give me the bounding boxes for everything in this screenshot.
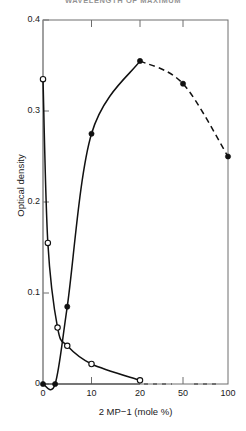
data-point-open	[89, 361, 94, 366]
x-tick-label: 100	[213, 389, 243, 398]
plot-frame	[43, 20, 228, 384]
data-point-filled	[137, 58, 142, 63]
x-tick-label: 20	[125, 389, 155, 398]
data-point-filled	[40, 381, 45, 386]
chart-figure: WAVELENGTH OF MAXIMUM Optical density 2 …	[0, 0, 246, 431]
y-tick-label: 0	[14, 379, 40, 388]
data-series	[43, 61, 228, 390]
x-tick-label: 0	[28, 389, 58, 398]
data-point-filled	[53, 381, 58, 386]
data-point-open	[40, 76, 45, 81]
y-tick-label: 0.4	[14, 15, 40, 24]
data-point-filled	[225, 154, 230, 159]
data-markers	[40, 58, 230, 386]
x-tick-label: 50	[168, 389, 198, 398]
y-tick-label: 0.2	[14, 197, 40, 206]
x-tick-label: 10	[77, 389, 107, 398]
data-point-filled	[89, 131, 94, 136]
y-tick-label: 0.1	[14, 288, 40, 297]
data-point-open	[55, 325, 60, 330]
data-point-filled	[65, 304, 70, 309]
data-point-filled	[180, 81, 185, 86]
x-axis-tick-labels: 0102050100	[0, 389, 246, 403]
y-axis-tick-labels: 00.10.20.30.4	[8, 0, 40, 431]
y-tick-label: 0.3	[14, 106, 40, 115]
data-point-open	[137, 378, 142, 383]
data-point-open	[45, 240, 50, 245]
data-point-open	[65, 343, 70, 348]
x-axis-title: 2 MP−1 (mole %)	[43, 406, 228, 417]
